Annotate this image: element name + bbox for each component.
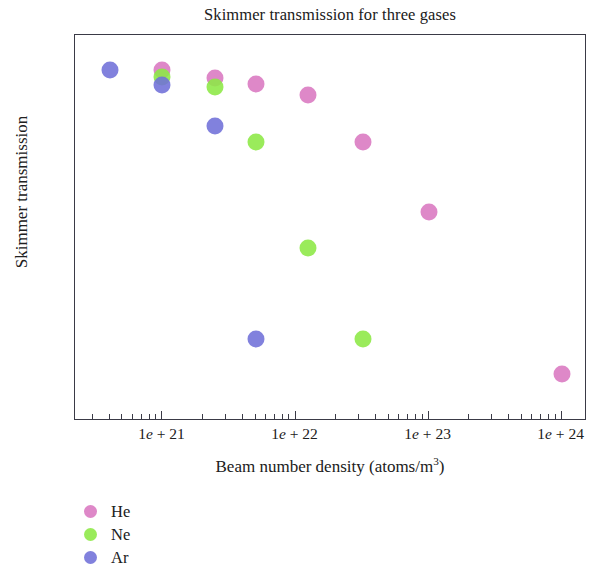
data-point-ne xyxy=(247,134,264,151)
data-point-he xyxy=(300,87,317,104)
x-tick xyxy=(358,414,359,420)
legend-label: Ne xyxy=(111,525,130,545)
plot-frame xyxy=(74,34,586,420)
legend-marker-icon xyxy=(84,505,97,518)
data-point-ar xyxy=(207,118,224,135)
x-tick xyxy=(265,414,266,420)
x-tick-label: 1e + 21 xyxy=(91,425,231,443)
x-tick-label: 1e + 22 xyxy=(225,425,365,443)
x-tick xyxy=(295,411,296,420)
x-tick xyxy=(121,414,122,420)
x-tick xyxy=(282,414,283,420)
data-point-ne xyxy=(354,330,371,347)
y-axis-title: Skimmer transmission xyxy=(12,42,32,342)
x-tick xyxy=(415,414,416,420)
chart-figure: Skimmer transmission for three gases Ski… xyxy=(0,0,612,569)
x-tick xyxy=(468,414,469,420)
x-tick xyxy=(555,414,556,420)
data-point-ar xyxy=(101,62,118,79)
x-tick xyxy=(508,414,509,420)
x-tick xyxy=(388,414,389,420)
plot-area xyxy=(75,35,585,419)
x-tick xyxy=(161,411,162,420)
x-tick xyxy=(132,414,133,420)
legend-item-ar[interactable]: Ar xyxy=(84,546,130,569)
x-tick xyxy=(202,414,203,420)
x-tick xyxy=(531,414,532,420)
x-tick xyxy=(548,414,549,420)
x-tick xyxy=(521,414,522,420)
legend-label: He xyxy=(111,502,130,522)
x-tick-label: 1e + 24 xyxy=(491,425,612,443)
legend-item-he[interactable]: He xyxy=(84,500,130,523)
data-point-he xyxy=(553,365,570,382)
x-tick xyxy=(398,414,399,420)
data-point-ar xyxy=(154,77,171,94)
x-tick xyxy=(407,414,408,420)
x-tick xyxy=(109,414,110,420)
x-tick xyxy=(92,414,93,420)
legend-marker-icon xyxy=(84,551,97,564)
data-point-he xyxy=(420,203,437,220)
x-tick xyxy=(335,414,336,420)
x-tick xyxy=(149,414,150,420)
x-tick xyxy=(561,411,562,420)
x-tick xyxy=(141,414,142,420)
data-point-ar xyxy=(247,330,264,347)
x-axis-title-suffix: ) xyxy=(439,457,445,476)
x-tick-label: 1e + 23 xyxy=(358,425,498,443)
x-tick xyxy=(242,414,243,420)
data-point-ne xyxy=(300,239,317,256)
x-tick xyxy=(288,414,289,420)
legend: HeNeAr xyxy=(84,500,130,569)
x-tick xyxy=(255,414,256,420)
x-tick xyxy=(225,414,226,420)
legend-marker-icon xyxy=(84,528,97,541)
x-tick xyxy=(422,414,423,420)
legend-item-ne[interactable]: Ne xyxy=(84,523,130,546)
x-tick xyxy=(428,411,429,420)
x-axis-title: Beam number density (atoms/m3) xyxy=(74,457,586,477)
x-tick xyxy=(375,414,376,420)
data-point-he xyxy=(354,134,371,151)
x-axis-title-main: Beam number density (atoms/m xyxy=(216,457,434,476)
legend-label: Ar xyxy=(111,548,128,568)
data-point-ne xyxy=(207,79,224,96)
x-tick xyxy=(540,414,541,420)
data-point-he xyxy=(247,75,264,92)
x-tick xyxy=(274,414,275,420)
chart-title: Skimmer transmission for three gases xyxy=(74,5,586,25)
x-tick xyxy=(491,414,492,420)
x-tick xyxy=(155,414,156,420)
